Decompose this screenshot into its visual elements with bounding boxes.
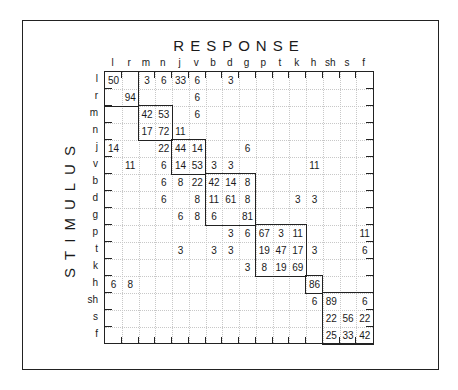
row-label: k [72, 260, 98, 271]
matrix-cell: 53 [189, 157, 206, 174]
axis-tick [322, 72, 323, 78]
matrix-cell: 6 [306, 293, 323, 310]
matrix-cell: 50 [105, 72, 122, 89]
matrix-cell: 8 [239, 174, 256, 191]
axis-tick [188, 337, 189, 343]
column-label: p [255, 57, 272, 68]
axis-tick [221, 337, 222, 343]
axis-tick [105, 207, 112, 208]
matrix-cell: 11 [306, 157, 323, 174]
column-label: n [154, 57, 171, 68]
axis-tick [288, 72, 289, 78]
axis-tick [366, 88, 373, 89]
matrix-cell: 22 [155, 140, 172, 157]
row-label: d [72, 192, 98, 203]
matrix-cell: 61 [222, 191, 239, 208]
matrix-cell: 11 [172, 123, 189, 140]
axis-tick [105, 173, 112, 174]
matrix-cell: 8 [122, 276, 139, 293]
axis-tick [272, 337, 273, 343]
matrix-cell: 8 [189, 191, 206, 208]
axis-tick [154, 337, 155, 343]
matrix-cell: 33 [172, 72, 189, 89]
axis-tick [366, 207, 373, 208]
row-label: n [72, 124, 98, 135]
column-label: m [138, 57, 155, 68]
matrix-cell: 8 [172, 174, 189, 191]
column-label: b [205, 57, 222, 68]
matrix-cell: 22 [323, 310, 340, 327]
row-label: t [72, 243, 98, 254]
axis-tick [366, 139, 373, 140]
matrix-cell: 6 [206, 208, 223, 225]
axis-tick [366, 122, 373, 123]
axis-tick [272, 72, 273, 78]
axis-tick [305, 72, 306, 78]
matrix-cell: 81 [239, 208, 256, 225]
axis-tick [105, 241, 112, 242]
axis-tick [355, 72, 356, 78]
matrix-cell: 11 [289, 225, 306, 242]
matrix-cell: 3 [306, 242, 323, 259]
matrix-cell: 19 [273, 259, 290, 276]
axis-tick [105, 190, 112, 191]
axis-tick [138, 337, 139, 343]
row-label: r [72, 90, 98, 101]
matrix-cell: 6 [155, 157, 172, 174]
column-label: k [288, 57, 305, 68]
axis-tick [121, 337, 122, 343]
matrix-cell: 86 [306, 276, 323, 293]
matrix-cell: 14 [222, 174, 239, 191]
matrix-cell: 25 [323, 327, 340, 344]
matrix-cell: 6 [356, 293, 373, 310]
axis-tick [105, 258, 112, 259]
matrix-cell: 19 [256, 242, 273, 259]
column-label: g [238, 57, 255, 68]
column-label: t [272, 57, 289, 68]
axis-tick [366, 275, 373, 276]
row-label: m [72, 107, 98, 118]
matrix-cell: 3 [273, 225, 290, 242]
axis-tick [171, 337, 172, 343]
axis-tick [105, 309, 112, 310]
row-label: l [72, 73, 98, 84]
matrix-cell: 3 [139, 72, 156, 89]
axis-tick [105, 326, 112, 327]
confusion-matrix: 5036336394642536177211142244146116145333… [104, 71, 374, 344]
matrix-cell: 6 [239, 225, 256, 242]
matrix-cell: 6 [189, 89, 206, 106]
matrix-cell: 8 [239, 191, 256, 208]
column-label: l [104, 57, 121, 68]
matrix-cell: 6 [356, 242, 373, 259]
matrix-cell: 11 [356, 225, 373, 242]
axis-tick [305, 337, 306, 343]
matrix-cell: 89 [323, 293, 340, 310]
matrix-cell: 56 [340, 310, 357, 327]
column-label: v [188, 57, 205, 68]
matrix-cell: 3 [222, 242, 239, 259]
matrix-cell: 17 [139, 123, 156, 140]
axis-tick [238, 337, 239, 343]
matrix-cell: 44 [172, 140, 189, 157]
chart-title: RESPONSE [104, 37, 374, 54]
matrix-cell: 33 [340, 327, 357, 344]
matrix-cell: 94 [122, 89, 139, 106]
matrix-cell: 42 [206, 174, 223, 191]
row-label: sh [72, 294, 98, 305]
axis-tick [105, 224, 112, 225]
matrix-cell: 3 [222, 225, 239, 242]
axis-tick [366, 173, 373, 174]
matrix-cell: 14 [172, 157, 189, 174]
matrix-cell: 6 [189, 72, 206, 89]
column-label: f [355, 57, 372, 68]
axis-tick [366, 190, 373, 191]
row-label: h [72, 277, 98, 288]
matrix-cell: 42 [356, 327, 373, 344]
matrix-cell: 3 [206, 157, 223, 174]
axis-tick [105, 122, 112, 123]
row-label: b [72, 175, 98, 186]
axis-tick [205, 337, 206, 343]
matrix-cell: 11 [122, 157, 139, 174]
matrix-cell: 17 [289, 242, 306, 259]
matrix-cell: 14 [189, 140, 206, 157]
